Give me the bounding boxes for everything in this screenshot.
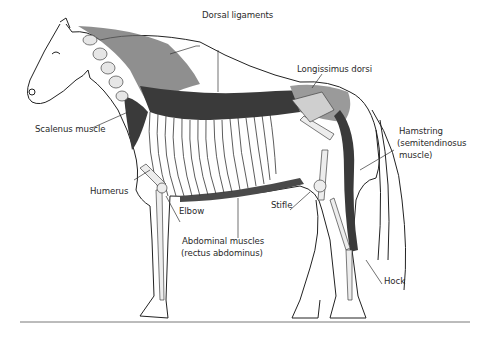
label-longissimus-dorsi: Longissimus dorsi [297,64,372,74]
label-hamstring-sub2: muscle) [399,150,432,160]
rib-cage [149,112,276,196]
label-abdominal-muscles: Abdominal muscles [182,236,264,246]
label-rectus-abdominus: (rectus abdominus) [181,248,263,258]
label-stifle: Stifle [271,200,292,210]
label-humerus: Humerus [90,186,128,196]
horse-illustration [0,0,479,344]
label-hock: Hock [384,276,405,286]
label-dorsal-ligaments: Dorsal ligaments [202,10,273,20]
label-scalenus-muscle: Scalenus muscle [35,124,105,134]
horse-anatomy-diagram: Dorsal ligaments Longissimus dorsi Scale… [0,0,479,344]
label-elbow: Elbow [179,206,204,216]
label-hamstring: Hamstring [399,126,443,136]
label-hamstring-sub1: (semitendinosus [397,138,466,148]
